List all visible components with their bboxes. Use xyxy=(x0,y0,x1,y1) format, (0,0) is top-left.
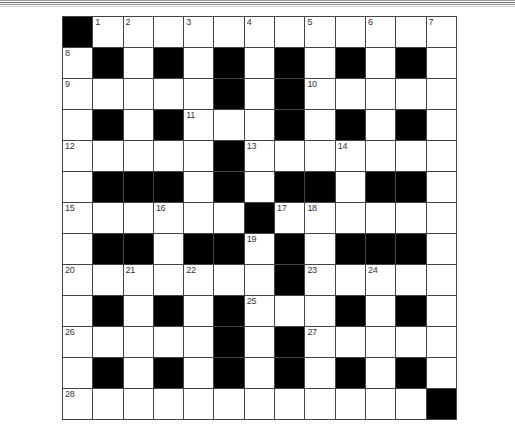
crossword-cell[interactable] xyxy=(427,141,457,172)
crossword-cell[interactable] xyxy=(305,234,335,265)
crossword-cell[interactable] xyxy=(396,265,426,296)
crossword-cell[interactable] xyxy=(305,358,335,389)
crossword-cell[interactable]: 11 xyxy=(184,110,214,141)
crossword-cell[interactable] xyxy=(366,48,396,79)
crossword-cell[interactable]: 24 xyxy=(366,265,396,296)
crossword-cell[interactable] xyxy=(124,79,154,110)
crossword-cell[interactable] xyxy=(184,389,214,420)
crossword-cell[interactable] xyxy=(245,110,275,141)
crossword-cell[interactable] xyxy=(63,358,93,389)
crossword-cell[interactable] xyxy=(275,17,305,48)
crossword-cell[interactable] xyxy=(154,389,184,420)
crossword-cell[interactable]: 26 xyxy=(63,327,93,358)
crossword-cell[interactable]: 5 xyxy=(305,17,335,48)
crossword-cell[interactable] xyxy=(245,389,275,420)
crossword-cell[interactable] xyxy=(93,79,123,110)
crossword-cell[interactable] xyxy=(366,327,396,358)
crossword-cell[interactable] xyxy=(184,296,214,327)
crossword-cell[interactable]: 3 xyxy=(184,17,214,48)
crossword-cell[interactable] xyxy=(336,265,366,296)
crossword-cell[interactable] xyxy=(396,141,426,172)
crossword-cell[interactable] xyxy=(124,389,154,420)
crossword-cell[interactable] xyxy=(154,265,184,296)
crossword-cell[interactable] xyxy=(427,327,457,358)
crossword-cell[interactable] xyxy=(124,48,154,79)
crossword-cell[interactable] xyxy=(154,234,184,265)
crossword-cell[interactable]: 1 xyxy=(93,17,123,48)
crossword-cell[interactable] xyxy=(245,358,275,389)
crossword-cell[interactable] xyxy=(124,203,154,234)
crossword-cell[interactable]: 23 xyxy=(305,265,335,296)
crossword-cell[interactable] xyxy=(124,358,154,389)
crossword-cell[interactable] xyxy=(214,203,244,234)
crossword-cell[interactable] xyxy=(427,172,457,203)
crossword-cell[interactable] xyxy=(336,17,366,48)
crossword-cell[interactable] xyxy=(184,327,214,358)
crossword-cell[interactable] xyxy=(427,265,457,296)
crossword-cell[interactable] xyxy=(396,203,426,234)
crossword-cell[interactable] xyxy=(396,327,426,358)
crossword-cell[interactable] xyxy=(245,172,275,203)
crossword-cell[interactable] xyxy=(305,141,335,172)
crossword-cell[interactable]: 25 xyxy=(245,296,275,327)
crossword-cell[interactable] xyxy=(305,389,335,420)
crossword-cell[interactable] xyxy=(427,234,457,265)
crossword-cell[interactable] xyxy=(275,389,305,420)
crossword-cell[interactable] xyxy=(184,358,214,389)
crossword-cell[interactable] xyxy=(93,265,123,296)
crossword-cell[interactable] xyxy=(154,327,184,358)
crossword-cell[interactable]: 15 xyxy=(63,203,93,234)
crossword-cell[interactable] xyxy=(275,141,305,172)
crossword-cell[interactable] xyxy=(124,296,154,327)
crossword-cell[interactable] xyxy=(124,327,154,358)
crossword-cell[interactable] xyxy=(275,296,305,327)
crossword-cell[interactable] xyxy=(396,79,426,110)
crossword-cell[interactable] xyxy=(93,327,123,358)
crossword-cell[interactable] xyxy=(63,234,93,265)
crossword-cell[interactable] xyxy=(214,110,244,141)
crossword-cell[interactable]: 20 xyxy=(63,265,93,296)
crossword-cell[interactable] xyxy=(214,17,244,48)
crossword-cell[interactable]: 17 xyxy=(275,203,305,234)
crossword-cell[interactable]: 8 xyxy=(63,48,93,79)
crossword-cell[interactable] xyxy=(245,327,275,358)
crossword-cell[interactable]: 21 xyxy=(124,265,154,296)
crossword-cell[interactable] xyxy=(154,79,184,110)
crossword-cell[interactable] xyxy=(366,79,396,110)
crossword-cell[interactable]: 19 xyxy=(245,234,275,265)
crossword-cell[interactable] xyxy=(184,172,214,203)
crossword-cell[interactable] xyxy=(336,327,366,358)
crossword-cell[interactable] xyxy=(214,389,244,420)
crossword-cell[interactable]: 6 xyxy=(366,17,396,48)
crossword-cell[interactable] xyxy=(336,79,366,110)
crossword-cell[interactable] xyxy=(154,141,184,172)
crossword-cell[interactable] xyxy=(305,110,335,141)
crossword-cell[interactable]: 7 xyxy=(427,17,457,48)
crossword-cell[interactable] xyxy=(124,141,154,172)
crossword-cell[interactable]: 4 xyxy=(245,17,275,48)
crossword-cell[interactable]: 22 xyxy=(184,265,214,296)
crossword-cell[interactable] xyxy=(366,389,396,420)
crossword-cell[interactable] xyxy=(154,17,184,48)
crossword-cell[interactable] xyxy=(305,48,335,79)
crossword-cell[interactable] xyxy=(396,389,426,420)
crossword-cell[interactable]: 12 xyxy=(63,141,93,172)
crossword-cell[interactable] xyxy=(184,79,214,110)
crossword-cell[interactable]: 14 xyxy=(336,141,366,172)
crossword-cell[interactable] xyxy=(124,110,154,141)
crossword-cell[interactable] xyxy=(93,203,123,234)
crossword-cell[interactable] xyxy=(427,358,457,389)
crossword-cell[interactable] xyxy=(366,141,396,172)
crossword-cell[interactable] xyxy=(427,79,457,110)
crossword-cell[interactable] xyxy=(336,389,366,420)
crossword-cell[interactable] xyxy=(427,296,457,327)
crossword-cell[interactable] xyxy=(184,203,214,234)
crossword-cell[interactable] xyxy=(366,203,396,234)
crossword-cell[interactable] xyxy=(366,296,396,327)
crossword-cell[interactable] xyxy=(336,203,366,234)
crossword-cell[interactable] xyxy=(245,48,275,79)
crossword-cell[interactable] xyxy=(93,389,123,420)
crossword-cell[interactable] xyxy=(184,141,214,172)
crossword-cell[interactable] xyxy=(427,203,457,234)
crossword-cell[interactable]: 2 xyxy=(124,17,154,48)
